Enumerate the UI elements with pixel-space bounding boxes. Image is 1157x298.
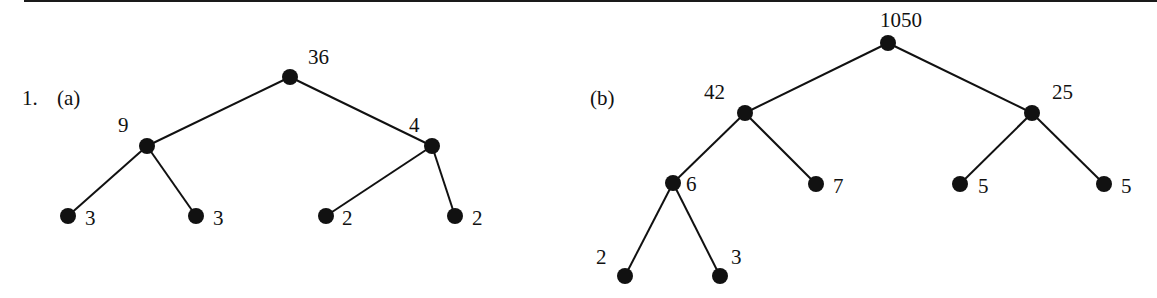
tree-node xyxy=(318,208,334,224)
node-value: 9 xyxy=(118,113,129,137)
tree-node xyxy=(139,138,155,154)
node-value: 2 xyxy=(596,245,607,269)
node-value: 2 xyxy=(342,206,353,230)
node-value: 1050 xyxy=(880,8,922,32)
tree-a: (a)36943322 xyxy=(57,45,483,230)
node-value: 42 xyxy=(704,80,725,104)
tree-caption: (a) xyxy=(57,86,80,110)
tree-edge xyxy=(147,77,290,146)
tree-diagrams: 1. (a)36943322(b)10504225675523 xyxy=(0,0,1157,298)
tree-edge xyxy=(960,113,1032,184)
tree-node xyxy=(712,268,728,284)
tree-node xyxy=(424,138,440,154)
tree-node xyxy=(880,35,896,51)
node-value: 3 xyxy=(213,206,224,230)
tree-node xyxy=(952,176,968,192)
tree-edge xyxy=(147,146,196,216)
tree-node xyxy=(1096,176,1112,192)
tree-edge xyxy=(673,113,745,183)
tree-edge xyxy=(888,43,1032,113)
node-value: 3 xyxy=(731,245,742,269)
node-value: 2 xyxy=(472,206,483,230)
tree-edge xyxy=(673,183,720,276)
tree-edge xyxy=(1032,113,1104,184)
tree-b: (b)10504225675523 xyxy=(590,8,1132,284)
tree-node xyxy=(665,175,681,191)
tree-node xyxy=(1024,105,1040,121)
tree-node xyxy=(617,268,633,284)
node-value: 4 xyxy=(409,113,420,137)
node-value: 36 xyxy=(308,45,329,69)
tree-edge xyxy=(68,146,147,216)
tree-edge xyxy=(625,183,673,276)
tree-node xyxy=(60,208,76,224)
node-value: 25 xyxy=(1052,80,1073,104)
tree-edge xyxy=(432,146,455,216)
tree-node xyxy=(808,176,824,192)
tree-node xyxy=(737,105,753,121)
tree-caption: (b) xyxy=(590,86,615,110)
tree-edge xyxy=(745,43,888,113)
node-value: 5 xyxy=(1121,174,1132,198)
tree-node xyxy=(447,208,463,224)
tree-node xyxy=(282,69,298,85)
node-value: 7 xyxy=(833,174,844,198)
problem-number: 1. xyxy=(22,86,38,110)
tree-edge xyxy=(745,113,816,184)
node-value: 3 xyxy=(85,206,96,230)
node-value: 5 xyxy=(978,174,989,198)
node-value: 6 xyxy=(686,172,697,196)
tree-node xyxy=(188,208,204,224)
